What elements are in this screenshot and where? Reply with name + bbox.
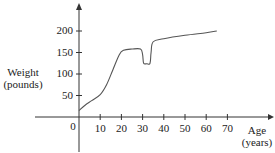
y-tick-label: 150 <box>43 47 73 58</box>
y-tick-label: 200 <box>43 25 73 36</box>
y-axis-arrow-icon <box>76 3 82 10</box>
x-axis-label-line2: (years) <box>240 136 274 148</box>
y-tick-label: 100 <box>43 68 73 79</box>
y-axis-label-line1: Weight <box>3 66 43 78</box>
y-axis-label: Weight (pounds) <box>3 66 43 90</box>
y-axis-label-line2: (pounds) <box>3 78 43 90</box>
x-tick-label: 0 <box>63 121 83 132</box>
x-tick-label: 30 <box>133 123 153 134</box>
x-tick-label: 60 <box>196 123 216 134</box>
x-tick-label: 10 <box>90 123 110 134</box>
x-tick-label: 40 <box>154 123 174 134</box>
x-axis-label-line1: Age <box>240 124 274 136</box>
weight-curve <box>79 31 217 111</box>
x-tick-label: 70 <box>217 123 237 134</box>
x-axis-label: Age (years) <box>240 124 274 148</box>
x-axis-arrow-icon <box>268 114 274 120</box>
x-tick-label: 20 <box>111 123 131 134</box>
y-tick-label: 50 <box>43 90 73 101</box>
x-tick-label: 50 <box>175 123 195 134</box>
